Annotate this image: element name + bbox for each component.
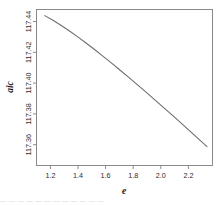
y-tick-label: 117.44: [24, 11, 33, 32]
x-tick-label: 1.2: [45, 171, 55, 180]
y-axis-title: aic: [5, 80, 15, 92]
plot-figure: 117.44 117.42 117.40 117.38 117.36 aic 1…: [0, 0, 224, 206]
data-series-line: [45, 16, 207, 147]
y-axis-ticks: [33, 22, 37, 145]
y-axis-tick-labels: 117.44 117.42 117.40 117.38 117.36: [24, 11, 33, 156]
y-tick-label: 117.38: [24, 103, 33, 124]
x-axis-ticks: [50, 166, 188, 170]
x-tick-label: 1.8: [128, 171, 138, 180]
plot-canvas: 117.44 117.42 117.40 117.38 117.36 aic 1…: [0, 0, 224, 206]
y-tick-label: 117.36: [24, 134, 33, 155]
x-axis-title: e: [122, 186, 127, 196]
x-tick-label: 2.0: [156, 171, 166, 180]
plot-frame: [37, 10, 213, 166]
x-tick-label: 1.4: [73, 171, 83, 180]
page-edge-artifact: — — — — — — — — — — — —: [0, 197, 224, 206]
x-tick-label: 2.2: [183, 171, 193, 180]
chart-screenshot: 117.44 117.42 117.40 117.38 117.36 aic 1…: [0, 0, 224, 206]
y-tick-label: 117.42: [24, 42, 33, 63]
y-tick-label: 117.40: [24, 72, 33, 93]
x-tick-label: 1.6: [101, 171, 111, 180]
x-axis-tick-labels: 1.2 1.4 1.6 1.8 2.0 2.2: [45, 171, 193, 180]
